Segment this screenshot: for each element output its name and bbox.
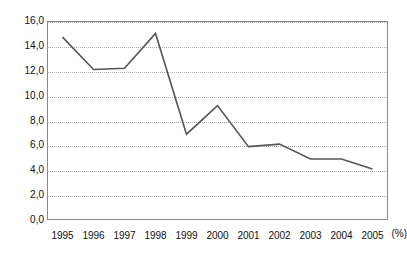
x-axis: 1995199619971998199920002001200220032004…: [47, 230, 388, 246]
y-axis-tick-label: 4,0: [4, 165, 44, 175]
y-axis-tick-label: 8,0: [4, 116, 44, 126]
x-axis-tick-label: 2005: [353, 230, 393, 241]
y-axis-tick-label: 0,0: [4, 215, 44, 225]
y-axis-tick-label: 2,0: [4, 190, 44, 200]
data-series-line: [47, 21, 388, 220]
y-axis-tick-label: 12,0: [4, 66, 44, 76]
y-axis: 16,014,012,010,08,06,04,02,00,0: [0, 0, 44, 263]
y-axis-tick-label: 6,0: [4, 140, 44, 150]
y-axis-tick-label: 10,0: [4, 91, 44, 101]
y-axis-tick-label: 14,0: [4, 41, 44, 51]
series-polyline: [63, 33, 373, 169]
y-axis-tick-label: 16,0: [4, 16, 44, 26]
line-chart: 16,014,012,010,08,06,04,02,00,0 (%) 1995…: [0, 0, 407, 263]
